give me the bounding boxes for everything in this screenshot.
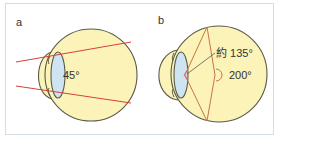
lens-b [174,52,188,98]
angle-label-135: 約 135° [216,44,253,60]
angle-label-200: 200° [229,69,252,81]
panel-b-label: b [158,14,164,26]
angle-label-45: 45° [63,69,80,81]
